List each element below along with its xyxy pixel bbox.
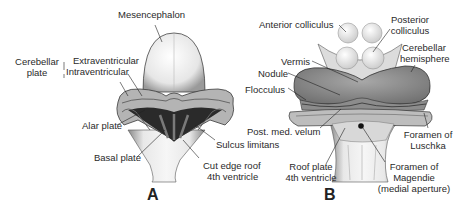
label-sulcus-limitans: Sulcus limitans [216,139,279,150]
label-cerebellar-hemisphere-line2: hemisphere [400,53,450,64]
label-post-med-velum: Post. med. velum [247,126,320,137]
label-intraventricular: Intraventricular [66,66,129,77]
panel-b-letter: B [324,186,336,204]
label-cut-edge-line2: 4th ventricle [207,171,258,182]
label-anterior-colliculus: Anterior colliculus [259,19,333,30]
label-foramen-magendie-line2: Magendie [374,172,454,183]
label-roof-plate-line1: Roof plate [281,161,341,172]
label-foramen-magendie-line1: Foramen of [374,161,454,172]
label-vermis: Vermis [281,56,310,67]
label-posterior-colliculus-line1: Posterior [384,14,436,25]
label-foramen-luschka-line1: Foramen of [396,129,460,140]
label-flocculus: Flocculus [245,84,285,95]
panel-a-letter: A [147,186,159,204]
label-cerebellar-hemisphere-line1: Cerebellar [402,42,446,53]
label-posterior-colliculus-line2: colliculus [384,25,436,36]
label-nodule: Nodule [258,68,288,79]
label-extraventricular: Extraventricular [73,55,139,66]
label-basal-plate: Basal plate [94,152,141,163]
label-cerebellar-plate-line1: Cerebellar [12,56,62,67]
label-mesencephalon: Mesencephalon [118,9,185,20]
label-foramen-luschka-line2: Luschka [396,140,460,151]
label-cerebellar-plate-line2: plate [12,67,62,78]
label-roof-plate-line2: 4th ventricle [281,172,341,183]
label-cut-edge-line1: Cut edge roof [203,160,261,171]
label-foramen-magendie-line3: (medial aperture) [374,183,454,194]
label-alar-plate: Alar plate [82,120,122,131]
